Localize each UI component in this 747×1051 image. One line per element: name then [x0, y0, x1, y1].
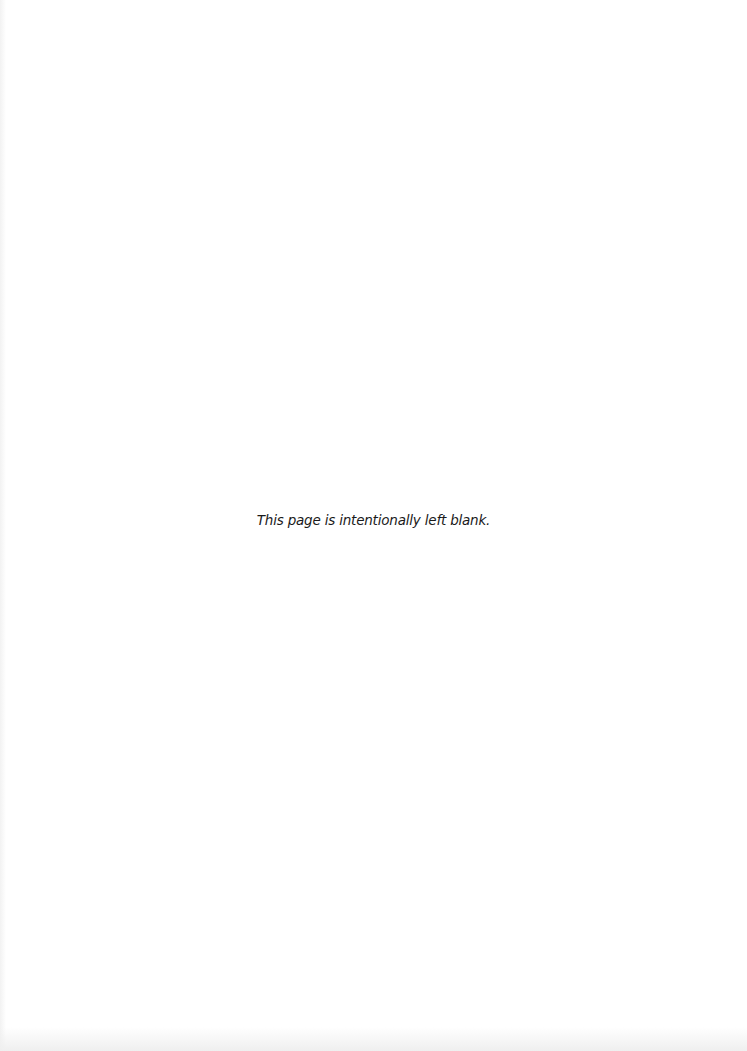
- document-page: This page is intentionally left blank.: [0, 0, 747, 1051]
- scan-edge-shadow-bottom: [0, 1027, 747, 1051]
- blank-page-notice: This page is intentionally left blank.: [0, 512, 747, 528]
